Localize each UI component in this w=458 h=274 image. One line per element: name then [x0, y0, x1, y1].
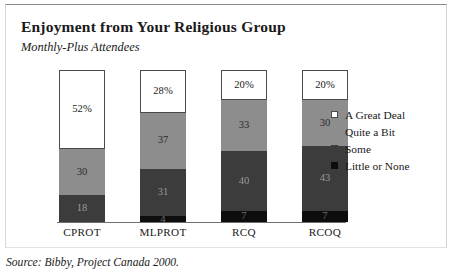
bar-segment-a-great-deal: 52% — [59, 70, 105, 149]
bar-segment-value: 52% — [72, 104, 91, 115]
bar-segment-value: 20% — [234, 80, 253, 91]
bar-rcq[interactable]: 20%33407 — [221, 70, 267, 222]
bar-segment-value: 31 — [158, 187, 169, 198]
bar-segment-value: 20% — [315, 80, 334, 91]
category-label-rcq: RCQ — [198, 226, 290, 238]
bar-stack: 52%3018 — [59, 70, 105, 222]
bar-segment-value: 28% — [153, 86, 172, 97]
bar-segment-value: 4 — [160, 216, 165, 222]
source-note: Source: Bibby, Project Canada 2000. — [6, 256, 179, 269]
bar-segment-value: 33 — [239, 120, 250, 131]
bar-segment-value: 30 — [320, 118, 331, 129]
bar-segment-little-or-none: 7 — [221, 211, 267, 222]
bar-segment-value: 40 — [239, 176, 250, 187]
chart-legend: A Great Deal Quite a Bit Some Little or … — [331, 106, 443, 174]
bar-segment-little-or-none: 7 — [302, 211, 348, 222]
bar-segment-some: 18 — [59, 195, 105, 222]
bar-segment-quite-a-bit: 30 — [59, 149, 105, 195]
category-label-rcoq: RCOQ — [279, 226, 371, 238]
bar-segment-some: 40 — [221, 151, 267, 212]
bar-segment-a-great-deal: 28% — [140, 70, 186, 113]
bar-segment-quite-a-bit: 37 — [140, 113, 186, 169]
category-label-mlprot: MLPROT — [117, 226, 209, 238]
chart-subtitle: Monthly-Plus Attendees — [21, 40, 140, 55]
legend-swatch-little-or-none-icon — [331, 162, 338, 169]
bar-stack: 20%33407 — [221, 70, 267, 222]
figure: Enjoyment from Your Religious Group Mont… — [0, 0, 458, 274]
bar-segment-quite-a-bit: 33 — [221, 100, 267, 150]
legend-item-quite-a-bit[interactable]: Quite a Bit — [331, 123, 443, 140]
bar-segment-value: 18 — [77, 203, 88, 214]
category-label-cprot: CPROT — [36, 226, 128, 238]
bar-mlprot[interactable]: 28%37314 — [140, 70, 186, 222]
bar-segment-a-great-deal: 20% — [302, 70, 348, 100]
legend-label-a-great-deal: A Great Deal — [345, 109, 405, 121]
bar-segment-value: 7 — [322, 211, 327, 222]
legend-label-quite-a-bit: Quite a Bit — [345, 126, 395, 138]
bar-stack: 28%37314 — [140, 70, 186, 222]
plot-area: 52%301828%3731420%3340720%30437 CPROTMLP… — [57, 66, 346, 223]
legend-swatch-some-icon — [331, 145, 338, 152]
x-axis-line — [57, 222, 346, 223]
legend-label-some: Some — [345, 143, 371, 155]
bar-segment-little-or-none: 4 — [140, 216, 186, 222]
chart-title: Enjoyment from Your Religious Group — [21, 18, 286, 36]
legend-item-little-or-none[interactable]: Little or None — [331, 157, 443, 174]
bar-segment-value: 43 — [320, 173, 331, 184]
bar-segment-value: 30 — [77, 167, 88, 178]
bar-segment-value: 37 — [158, 135, 169, 146]
legend-label-little-or-none: Little or None — [345, 160, 410, 172]
legend-swatch-quite-a-bit-icon — [331, 128, 338, 135]
bar-segment-a-great-deal: 20% — [221, 70, 267, 100]
bar-cprot[interactable]: 52%3018 — [59, 70, 105, 222]
bar-segment-some: 31 — [140, 169, 186, 216]
legend-swatch-a-great-deal-icon — [331, 111, 338, 118]
legend-item-some[interactable]: Some — [331, 140, 443, 157]
bar-segment-value: 7 — [241, 211, 246, 222]
legend-item-a-great-deal[interactable]: A Great Deal — [331, 106, 443, 123]
